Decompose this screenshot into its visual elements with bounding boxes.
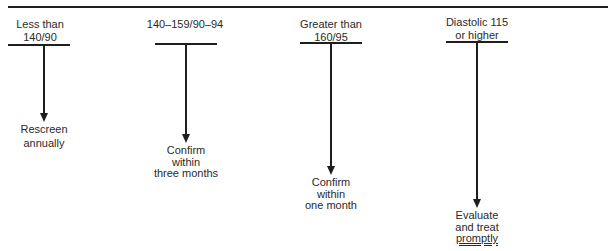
arrow-head-icon: [182, 134, 190, 143]
arrow-stem: [43, 45, 45, 113]
emphasized-word: promptly: [417, 233, 537, 245]
top-rule: [8, 6, 608, 8]
category-label: Less than 140/90: [0, 18, 100, 44]
arrow-head-icon: [473, 199, 481, 208]
action-label: Evaluate and treat promptly: [417, 210, 537, 245]
arrow-stem: [476, 42, 478, 199]
category-label: Diastolic 115 or higher: [417, 16, 537, 42]
category-label: Greater than 160/95: [271, 18, 391, 44]
arrow-head-icon: [327, 166, 335, 175]
action-label: Rescreen annually: [0, 124, 104, 149]
category-bar: [8, 44, 70, 46]
action-label: Confirm within three months: [126, 145, 246, 180]
category-label: 140–159/90–94: [125, 18, 245, 31]
arrow-head-icon: [40, 113, 48, 122]
arrow-stem: [185, 44, 187, 134]
action-label: Confirm within one month: [271, 177, 391, 212]
arrow-stem: [330, 43, 332, 166]
